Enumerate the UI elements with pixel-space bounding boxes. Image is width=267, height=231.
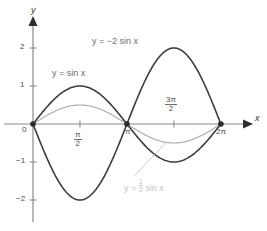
curve-intersection-marker [218, 121, 224, 127]
curve-label-neg-two-sin-x: y = −2 sin x [92, 37, 138, 46]
y-axis-arrowhead [29, 16, 38, 26]
x-tick-label-pi: π [125, 128, 131, 136]
y-tick-label-neg1: −1 [16, 157, 25, 165]
curve-label-half-sin-x: y = 1 2 sin x [124, 178, 164, 194]
y-axis-label: y [31, 6, 36, 15]
x-tick-3pi-over-2-denominator: 2 [165, 104, 177, 113]
curve-intersection-marker [30, 121, 36, 127]
curve-intersection-marker [124, 121, 130, 127]
half-sin-label-rhs: sin x [145, 183, 164, 193]
half-sin-numerator: 1 [139, 178, 143, 185]
origin-label: 0 [22, 126, 26, 134]
x-tick-label-pi-over-2: π 2 [74, 131, 82, 149]
y-tick-label-neg2: −2 [16, 195, 25, 203]
x-tick-3pi-over-2-numerator: 3π [165, 96, 177, 104]
x-axis-arrowhead [243, 120, 253, 129]
x-tick-pi-over-2-denominator: 2 [74, 139, 82, 148]
half-sin-denominator: 2 [139, 185, 143, 193]
half-sin-label-fraction: 1 2 [139, 178, 143, 194]
x-axis-label: x [255, 114, 260, 123]
sine-transformations-figure: y x 0 2 1 −1 −2 π 2 π 3π 2 2π y = sin x … [0, 0, 267, 231]
x-tick-label-3pi-over-2: 3π 2 [165, 96, 177, 114]
y-tick-label-1: 1 [20, 81, 24, 89]
curve-label-sin-x: y = sin x [52, 69, 85, 78]
x-tick-label-2pi: 2π [216, 128, 226, 136]
half-sin-label-lhs: y = [124, 183, 136, 193]
x-tick-pi-over-2-numerator: π [74, 131, 82, 139]
graph-canvas [0, 0, 267, 231]
y-tick-label-2: 2 [20, 43, 24, 51]
